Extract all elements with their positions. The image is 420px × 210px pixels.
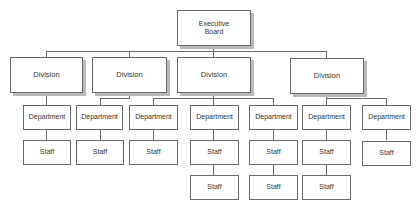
division-node-2: Division xyxy=(92,57,167,93)
division-label: Division xyxy=(33,71,59,80)
staff-label: Staff xyxy=(40,148,54,156)
connector-dept6-up xyxy=(326,98,327,105)
department-node-4: Department xyxy=(190,105,239,130)
executive-board-node: Executive Board xyxy=(177,10,251,46)
connector-div4-up xyxy=(326,51,327,58)
staff-label: Staff xyxy=(319,148,333,156)
department-node-5: Department xyxy=(249,105,298,130)
staff-label: Staff xyxy=(207,148,221,156)
connector-div4-bus xyxy=(326,98,387,99)
staff-node: Staff xyxy=(302,175,351,200)
staff-node: Staff xyxy=(76,140,124,165)
connector-dept1-staff xyxy=(46,129,47,140)
staff-node: Staff xyxy=(129,140,178,165)
department-label: Department xyxy=(308,113,345,121)
staff-label: Staff xyxy=(93,148,107,156)
connector-dept2-staff xyxy=(100,129,101,140)
root-label-line2: Board xyxy=(205,28,224,36)
connector-div2-bus xyxy=(100,98,130,99)
staff-label: Staff xyxy=(266,148,280,156)
department-node-1: Department xyxy=(23,105,71,130)
connector-div1-dept1 xyxy=(46,92,47,105)
connector-dept5-up xyxy=(273,98,274,105)
staff-node: Staff xyxy=(249,175,298,200)
connector-division-bus xyxy=(46,51,327,52)
connector-dept4-up xyxy=(213,98,214,105)
department-label: Department xyxy=(255,113,292,121)
staff-label: Staff xyxy=(379,149,393,157)
connector-dept2-up xyxy=(100,98,101,105)
staff-node: Staff xyxy=(249,140,298,165)
division-node-4: Division xyxy=(290,58,364,94)
staff-node: Staff xyxy=(362,141,411,166)
staff-node: Staff xyxy=(190,140,239,165)
staff-label: Staff xyxy=(266,183,280,191)
department-label: Department xyxy=(81,113,118,121)
department-label: Department xyxy=(29,113,66,121)
department-node-6: Department xyxy=(302,105,351,130)
division-node-1: Division xyxy=(10,57,83,93)
department-node-7: Department xyxy=(362,105,411,130)
department-label: Department xyxy=(135,113,172,121)
connector-dept3-up2 xyxy=(153,98,154,105)
division-label: Division xyxy=(314,72,340,81)
staff-label: Staff xyxy=(146,148,160,156)
department-label: Department xyxy=(196,113,233,121)
division-node-3: Division xyxy=(177,57,251,93)
root-label-line1: Executive xyxy=(199,20,229,28)
staff-label: Staff xyxy=(319,183,333,191)
division-label: Division xyxy=(116,71,142,80)
connector-dept7-staff xyxy=(386,129,387,140)
staff-node: Staff xyxy=(23,140,71,165)
staff-label: Staff xyxy=(207,183,221,191)
department-label: Department xyxy=(368,113,405,121)
connector-dept7-up xyxy=(386,98,387,105)
staff-node: Staff xyxy=(302,140,351,165)
department-node-3: Department xyxy=(129,105,178,130)
department-node-2: Department xyxy=(76,105,123,130)
staff-node: Staff xyxy=(190,175,239,200)
division-label: Division xyxy=(201,71,227,80)
connector-dept3-staff xyxy=(153,129,154,140)
